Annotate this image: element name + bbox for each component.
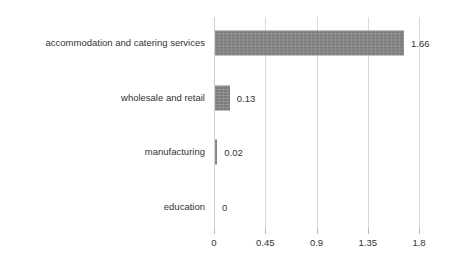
bar-rows: accommodation and catering services 1.66… [214,17,419,228]
bar-chart: accommodation and catering services 1.66… [0,0,461,266]
x-tick-label-0.45: 0.45 [256,237,275,248]
bar-group: 0 [215,194,227,219]
x-tick-label-1.35: 1.35 [359,237,378,248]
bar-row-manufacturing: manufacturing 0.02 [214,126,419,179]
bar-group: 0.02 [215,140,243,165]
category-label: accommodation and catering services [46,38,205,48]
x-tick-1.8 [419,228,420,234]
bar-group: 1.66 [215,31,430,56]
bar-value-label: 0.02 [224,147,243,158]
x-tick-label-1.8: 1.8 [412,237,425,248]
bar-group: 0.13 [215,85,255,110]
x-tick-label-0: 0 [211,237,216,248]
category-label: wholesale and retail [121,93,205,103]
x-tick-0 [214,228,215,234]
x-tick-label-0.9: 0.9 [310,237,323,248]
bar-value-label: 0 [222,201,227,212]
bar-value-label: 0.13 [237,92,256,103]
x-tick-0.9 [317,228,318,234]
category-label: education [164,202,205,212]
category-label: manufacturing [145,147,205,157]
bar-manufacturing[interactable] [215,140,217,165]
bar-accommodation[interactable] [215,31,404,56]
x-axis: 0 0.45 0.9 1.35 1.8 [214,228,419,258]
x-tick-0.45 [265,228,266,234]
bar-row-wholesale: wholesale and retail 0.13 [214,72,419,125]
bar-value-label: 1.66 [411,38,430,49]
x-tick-1.35 [368,228,369,234]
bar-wholesale[interactable] [215,85,230,110]
plot-area: accommodation and catering services 1.66… [214,17,419,228]
bar-row-accommodation: accommodation and catering services 1.66 [214,17,419,70]
bar-row-education: education 0 [214,181,419,234]
